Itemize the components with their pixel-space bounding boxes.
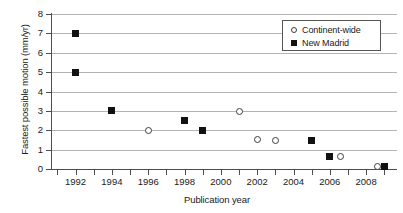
x-axis-line [51,169,397,170]
legend-item[interactable]: Continent-wide [288,24,380,36]
x-tick-label: 2008 [349,177,383,187]
x-minor-tick-mark [275,170,276,175]
x-minor-tick-mark [312,170,313,175]
data-point-marker [181,117,188,124]
x-minor-tick-mark [384,170,385,175]
x-tick-label: 2002 [240,177,274,187]
x-tick-label: 1998 [168,177,202,187]
scatter-chart-figure: Fastest possible motion (mm/yr) Publicat… [0,0,403,213]
data-point-marker [236,108,243,115]
filled-square-icon [288,40,300,46]
y-tick-label: 6 [28,48,43,58]
x-tick-mark [330,170,331,175]
x-minor-tick-mark [130,170,131,175]
legend-item[interactable]: New Madrid [288,37,380,49]
y-tick-label: 5 [28,67,43,77]
y-tick-label: 1 [28,145,43,155]
y-tick-label: 8 [28,9,43,19]
x-minor-tick-mark [57,170,58,175]
x-axis-title: Publication year [52,194,382,205]
y-tick-label: 7 [28,28,43,38]
x-tick-label: 2000 [204,177,238,187]
x-tick-label: 1994 [95,177,129,187]
x-minor-tick-mark [94,170,95,175]
x-minor-tick-mark [166,170,167,175]
legend-item-label: New Madrid [302,38,349,48]
x-tick-label: 2006 [313,177,347,187]
data-point-marker [308,137,315,144]
x-tick-mark [366,170,367,175]
x-minor-tick-mark [203,170,204,175]
x-minor-tick-mark [348,170,349,175]
x-tick-label: 1992 [59,177,93,187]
data-point-marker [145,127,152,134]
data-point-marker [72,30,79,37]
x-tick-label: 2004 [277,177,311,187]
x-tick-mark [221,170,222,175]
y-tick-label: 4 [28,87,43,97]
x-tick-mark [185,170,186,175]
data-point-marker [337,153,344,160]
open-circle-icon [288,27,300,33]
data-point-marker [374,163,381,170]
x-tick-mark [76,170,77,175]
y-tick-label: 3 [28,106,43,116]
y-tick-label: 0 [28,164,43,174]
data-point-marker [254,136,261,143]
data-point-marker [108,107,115,114]
x-tick-label: 1996 [131,177,165,187]
data-point-marker [199,127,206,134]
data-point-marker [326,153,333,160]
data-point-marker [272,137,279,144]
x-tick-mark [294,170,295,175]
x-minor-tick-mark [239,170,240,175]
x-tick-mark [257,170,258,175]
chart-legend: Continent-wideNew Madrid [282,20,381,51]
x-tick-mark [148,170,149,175]
legend-item-label: Continent-wide [302,25,361,35]
data-point-marker [72,69,79,76]
y-tick-label: 2 [28,125,43,135]
x-tick-mark [112,170,113,175]
data-point-marker [381,163,388,170]
